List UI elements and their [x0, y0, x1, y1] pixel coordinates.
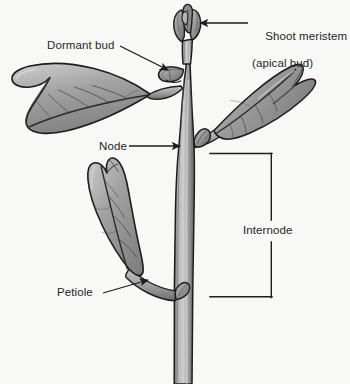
- leaf-lower-left: [88, 158, 176, 301]
- dormant-bud: [159, 67, 184, 82]
- leaf-upper-left: [12, 64, 183, 134]
- label-shoot-meristem: Shoot meristem (apical bud): [252, 16, 347, 97]
- leader-dormant-bud: [120, 46, 168, 70]
- apical-bud: [174, 4, 201, 64]
- label-petiole: Petiole: [57, 286, 93, 300]
- label-shoot-meristem-line2: (apical bud): [252, 57, 347, 71]
- label-node: Node: [99, 140, 127, 154]
- stem: [174, 63, 194, 384]
- plant-anatomy-diagram: Shoot meristem (apical bud) Dormant bud …: [0, 0, 350, 384]
- label-shoot-meristem-line1: Shoot meristem: [265, 30, 347, 42]
- label-internode: Internode: [243, 224, 293, 238]
- label-dormant-bud: Dormant bud: [47, 39, 115, 53]
- axillary-bud-node: [194, 129, 210, 147]
